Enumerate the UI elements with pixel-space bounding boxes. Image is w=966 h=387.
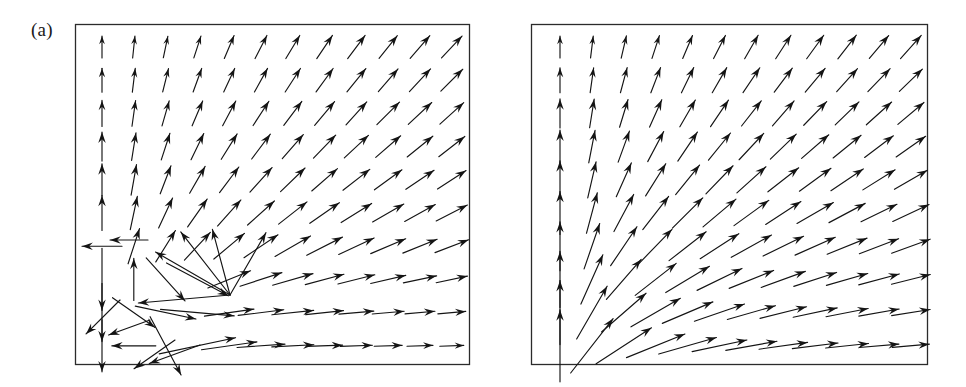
- panel-b: (b): [483, 0, 966, 387]
- panel-b-quiver-plot: [483, 0, 966, 387]
- panel-a: (a): [0, 0, 483, 387]
- panel-a-quiver-plot: [0, 0, 483, 387]
- arrow-head: [173, 364, 181, 375]
- vector-field-figure: (a) (b): [0, 0, 966, 387]
